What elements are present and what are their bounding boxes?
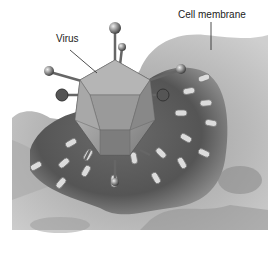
virus-leader-line xyxy=(70,50,97,73)
virus-cell-illustration xyxy=(0,0,278,259)
cell-membrane-label: Cell membrane xyxy=(178,9,246,20)
virus-label: Virus xyxy=(56,33,79,44)
